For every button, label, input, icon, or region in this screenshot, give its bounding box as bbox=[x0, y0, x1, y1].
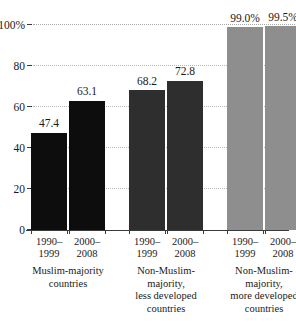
plot-area: 020406080100%47.463.168.272.899.0%99.5% bbox=[33, 25, 295, 230]
group-label-line: Muslim-majority bbox=[32, 265, 104, 278]
period-label-line: 1990– bbox=[36, 236, 62, 248]
period-label-line: 1999 bbox=[232, 248, 258, 260]
y-axis-label: 20 bbox=[14, 183, 26, 195]
x-axis-baseline bbox=[26, 230, 289, 231]
x-tick-mark bbox=[105, 230, 106, 234]
group-label-line: countries bbox=[135, 303, 197, 316]
period-label-line: 1990– bbox=[134, 236, 160, 248]
group-label-line: countries bbox=[32, 278, 104, 291]
period-label-line: 1999 bbox=[134, 248, 160, 260]
x-axis-group-label: Non-Muslim-majority,more developedcountr… bbox=[230, 265, 296, 315]
x-axis-period-label: 1990–1999 bbox=[36, 236, 62, 259]
x-axis-period-label: 2000–2008 bbox=[74, 236, 100, 259]
y-axis-label: 60 bbox=[14, 101, 26, 113]
bar-value-label: 72.8 bbox=[175, 66, 195, 78]
x-tick-mark bbox=[265, 230, 266, 234]
x-tick-mark bbox=[31, 230, 32, 234]
x-tick-mark bbox=[165, 230, 166, 234]
x-axis-period-label: 1990–1999 bbox=[232, 236, 258, 259]
y-axis-label: 80 bbox=[14, 60, 26, 72]
bar: 47.4 bbox=[31, 133, 67, 230]
bar-value-label: 47.4 bbox=[39, 118, 59, 130]
period-label-line: 2000– bbox=[270, 236, 296, 248]
y-axis-label: 40 bbox=[14, 142, 26, 154]
group-label-line: Non-Muslim- bbox=[230, 265, 296, 278]
group-label-line: less developed bbox=[135, 290, 197, 303]
x-axis-group-label: Non-Muslim-majority,less developedcountr… bbox=[135, 265, 197, 315]
bar: 99.5% bbox=[265, 26, 296, 230]
bar: 63.1 bbox=[69, 101, 105, 230]
bar-value-label: 63.1 bbox=[77, 86, 97, 98]
x-axis-group-label: Muslim-majoritycountries bbox=[32, 265, 104, 290]
bar-value-label: 68.2 bbox=[137, 76, 157, 88]
period-label-line: 1999 bbox=[36, 248, 62, 260]
group-label-line: Non-Muslim- bbox=[135, 265, 197, 278]
x-tick-mark bbox=[167, 230, 168, 234]
x-axis-period-label: 2000–2008 bbox=[270, 236, 296, 259]
x-tick-mark bbox=[69, 230, 70, 234]
y-axis-label: 100% bbox=[0, 19, 25, 31]
y-tick-mark bbox=[27, 106, 32, 107]
gridline-100 bbox=[33, 24, 295, 25]
x-tick-mark bbox=[203, 230, 204, 234]
x-axis-period-label: 2000–2008 bbox=[172, 236, 198, 259]
group-label-line: majority, bbox=[230, 278, 296, 291]
y-tick-mark bbox=[27, 24, 32, 25]
bar-value-label: 99.5% bbox=[268, 12, 296, 24]
period-label-line: 2000– bbox=[172, 236, 198, 248]
bar: 68.2 bbox=[129, 90, 165, 230]
bar: 99.0% bbox=[227, 27, 263, 230]
x-axis-period-label: 1990–1999 bbox=[134, 236, 160, 259]
period-label-line: 2000– bbox=[74, 236, 100, 248]
y-axis-label: 0 bbox=[19, 224, 25, 236]
y-tick-mark bbox=[27, 65, 32, 66]
period-label-line: 2008 bbox=[172, 248, 198, 260]
bar-chart: 020406080100%47.463.168.272.899.0%99.5% … bbox=[0, 0, 296, 326]
period-label-line: 2008 bbox=[270, 248, 296, 260]
x-tick-mark bbox=[263, 230, 264, 234]
group-label-line: countries bbox=[230, 303, 296, 316]
period-label-line: 2008 bbox=[74, 248, 100, 260]
group-label-line: more developed bbox=[230, 290, 296, 303]
period-label-line: 1990– bbox=[232, 236, 258, 248]
group-label-line: majority, bbox=[135, 278, 197, 291]
bar-value-label: 99.0% bbox=[230, 13, 260, 25]
x-tick-mark bbox=[129, 230, 130, 234]
bar: 72.8 bbox=[167, 81, 203, 230]
x-tick-mark bbox=[227, 230, 228, 234]
x-tick-mark bbox=[67, 230, 68, 234]
